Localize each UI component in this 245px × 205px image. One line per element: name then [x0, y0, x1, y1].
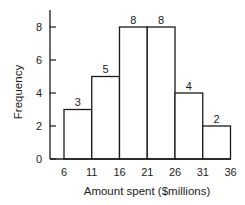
y-ticks-group: 02468 [36, 21, 56, 165]
y-tick-label: 2 [36, 120, 42, 132]
histogram-bar [147, 27, 175, 159]
histogram-bar [92, 77, 120, 160]
x-tick-label: 31 [197, 166, 209, 178]
histogram-bar [64, 110, 92, 160]
bar-value-label: 2 [214, 113, 220, 125]
x-tick-label: 11 [86, 166, 97, 178]
x-tick-label: 26 [169, 166, 181, 178]
y-tick-label: 4 [36, 87, 42, 99]
y-tick-label: 0 [36, 153, 42, 165]
bar-value-label: 3 [75, 96, 81, 108]
y-tick-label: 8 [36, 21, 42, 33]
bar-value-label: 8 [130, 14, 136, 26]
histogram-chart: 358842 02468 6111621263136 Amount spent … [0, 0, 245, 205]
bar-value-label: 4 [186, 80, 192, 92]
y-axis-label: Frequency [12, 65, 24, 120]
x-tick-label: 21 [141, 166, 153, 178]
bars-group [64, 27, 231, 159]
x-tick-label: 6 [61, 166, 67, 178]
histogram-bar [175, 93, 203, 159]
x-ticks-group: 6111621263136 [61, 166, 237, 178]
bar-value-label: 5 [103, 63, 109, 75]
histogram-bar [120, 27, 148, 159]
x-tick-label: 36 [224, 166, 236, 178]
bar-value-label: 8 [158, 14, 164, 26]
x-tick-label: 16 [113, 166, 125, 178]
x-axis-label: Amount spent ($millions) [84, 185, 211, 197]
y-tick-label: 6 [36, 54, 42, 66]
histogram-bar [203, 126, 231, 159]
